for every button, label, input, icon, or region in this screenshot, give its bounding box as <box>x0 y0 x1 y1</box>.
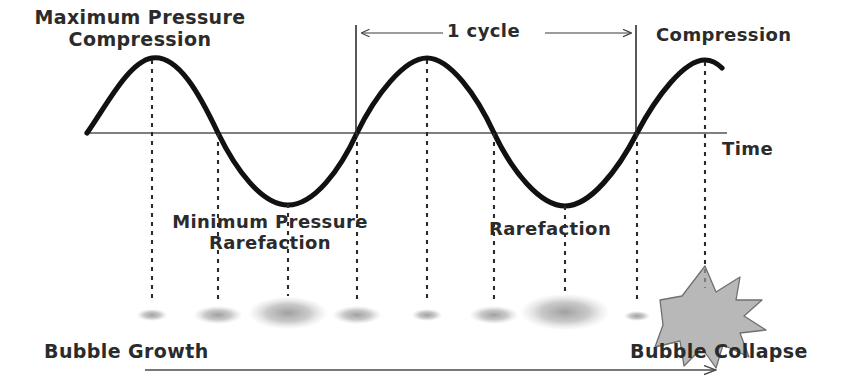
bubble-4 <box>333 306 381 324</box>
bubble-8 <box>624 311 650 321</box>
bubble-6 <box>470 306 518 324</box>
diagram-canvas: Maximum PressureCompression 1 cycle Comp… <box>0 0 856 391</box>
bubble-collapse-label: Bubble Collapse <box>630 340 808 362</box>
bubble-2 <box>194 306 242 324</box>
bubble-7 <box>521 294 609 330</box>
pressure-wave-svg <box>0 0 856 391</box>
maximum-pressure-caption: Maximum PressureCompression <box>18 6 262 51</box>
maximum-pressure-label: Maximum Pressure <box>34 6 245 28</box>
minimum-pressure-label: Minimum Pressure <box>172 211 368 232</box>
dashed-guide-lines <box>152 60 705 304</box>
bubble-series <box>137 294 650 330</box>
rarefaction-left-label: Rarefaction <box>209 232 331 253</box>
compression-right-label: Compression <box>656 24 791 45</box>
one-cycle-label: 1 cycle <box>447 20 520 41</box>
time-axis-label: Time <box>722 138 773 159</box>
compression-left-label: Compression <box>69 28 212 50</box>
minimum-pressure-caption: Minimum PressureRarefaction <box>125 211 415 253</box>
bubble-growth-label: Bubble Growth <box>44 340 209 362</box>
bubble-1 <box>137 309 167 321</box>
bubble-3 <box>249 297 327 329</box>
rarefaction-right-label: Rarefaction <box>489 218 611 239</box>
bubble-5 <box>412 309 442 321</box>
pressure-wave-curve <box>87 58 722 206</box>
